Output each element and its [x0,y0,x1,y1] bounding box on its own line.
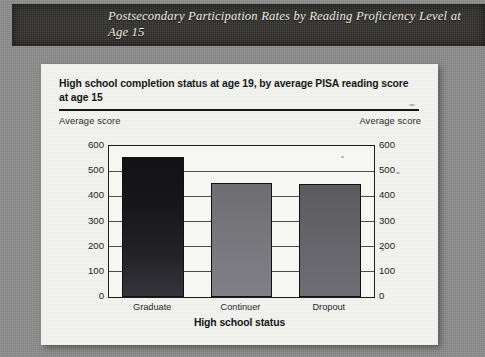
y-axis-left-tick-label: 500 [88,164,104,175]
y-axis-left-caption: Average score [59,115,121,126]
y-axis-left-tick-label: 0 [99,290,104,301]
header-banner-title: Postsecondary Participation Rates by Rea… [108,8,480,40]
y-axis-right-tick-label: 600 [379,139,395,150]
x-axis-category-label: Dropout [285,302,373,312]
y-axis-right-tick-label: 0 [379,290,384,301]
y-axis-left-tick-label: 100 [88,265,104,276]
y-axis-left-tick-label: 600 [88,139,104,150]
title-divider [59,109,419,111]
plot-area: 00100100200200300300400400500500600600 [108,145,375,298]
page-background: Postsecondary Participation Rates by Rea… [0,0,485,357]
y-axis-right-tick-label: 500 [379,164,395,175]
scan-speck [381,249,384,251]
y-axis-right-tick-label: 400 [379,189,395,200]
bar-dropout [299,184,361,297]
scan-speck [396,172,400,174]
y-axis-left-tick-label: 400 [88,189,104,200]
header-banner: Postsecondary Participation Rates by Rea… [12,4,485,46]
scan-speck [341,156,344,158]
scan-speck [409,104,415,106]
y-axis-left-tick-label: 300 [88,215,104,226]
x-axis-title: High school status [41,317,438,328]
x-axis-category-label: Graduate [108,302,196,312]
bar-continuer [211,183,273,297]
chart-card: High school completion status at age 19,… [41,64,438,345]
bar-graduate [122,157,184,297]
y-axis-right-tick-label: 300 [379,215,395,226]
chart-title: High school completion status at age 19,… [59,77,411,104]
x-axis-category-label: Continuer [196,302,284,312]
y-axis-right-tick-label: 100 [379,265,395,276]
y-axis-right-caption: Average score [359,115,421,126]
y-axis-left-tick-label: 200 [88,240,104,251]
